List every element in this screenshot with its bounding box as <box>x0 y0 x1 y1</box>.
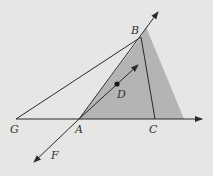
label-c: C <box>149 123 158 136</box>
geometry-diagram: G A C B D F <box>0 0 213 176</box>
label-d: D <box>116 88 126 101</box>
diagram-svg: G A C B D F <box>0 0 213 176</box>
label-b: B <box>130 24 139 37</box>
point-d <box>114 81 119 86</box>
label-g: G <box>10 123 19 136</box>
label-a: A <box>74 123 83 136</box>
label-f: F <box>50 149 59 162</box>
